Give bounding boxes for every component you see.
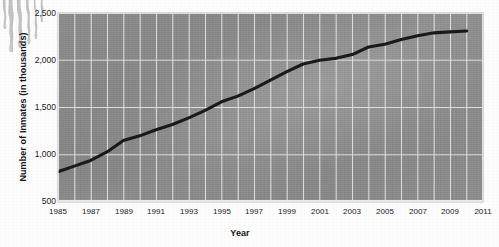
line-chart: Number of Inmates (in thousands) Year 2,… — [0, 0, 499, 247]
plot-left-edge — [58, 13, 59, 202]
x-tick-label: 1985 — [43, 207, 73, 216]
x-axis-title: Year — [195, 228, 285, 238]
y-tick-label: 500 — [22, 197, 56, 206]
x-tick-label: 2011 — [468, 207, 498, 216]
x-tick-label: 2007 — [403, 207, 433, 216]
x-tick-label: 1987 — [76, 207, 106, 216]
y-tick-label: 2,500 — [22, 9, 56, 18]
x-tick-label: 2009 — [435, 207, 465, 216]
series-inmates-line — [58, 31, 467, 172]
x-tick-label: 1997 — [239, 207, 269, 216]
y-tick-label: 2,000 — [22, 56, 56, 65]
x-tick-label: 2005 — [370, 207, 400, 216]
plot-area — [58, 13, 483, 202]
x-tick-label: 1993 — [174, 207, 204, 216]
x-tick-label: 2001 — [305, 207, 335, 216]
x-tick-label: 1999 — [272, 207, 302, 216]
data-series-line — [58, 13, 483, 202]
plot-bottom-edge — [58, 200, 483, 202]
x-tick-label: 1991 — [141, 207, 171, 216]
x-tick-label: 1995 — [207, 207, 237, 216]
y-tick-label: 1,500 — [22, 103, 56, 112]
x-tick-label: 1989 — [109, 207, 139, 216]
x-tick-label: 2003 — [337, 207, 367, 216]
y-tick-label: 1,000 — [22, 150, 56, 159]
